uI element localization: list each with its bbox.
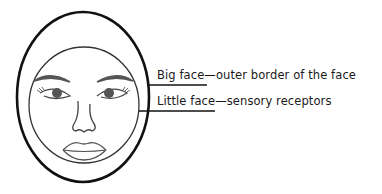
lips-icon bbox=[63, 143, 106, 160]
nose-icon bbox=[73, 101, 96, 132]
right-eyebrow-icon bbox=[97, 76, 133, 82]
little-face-outline bbox=[29, 47, 139, 163]
big-face-label: Big face—outer border of the face bbox=[157, 68, 356, 82]
big-face-outline bbox=[17, 12, 149, 182]
little-face-label: Little face—sensory receptors bbox=[157, 94, 332, 108]
right-eye-icon bbox=[97, 87, 130, 98]
left-eyebrow-icon bbox=[34, 76, 70, 82]
left-eye-icon bbox=[37, 87, 70, 99]
